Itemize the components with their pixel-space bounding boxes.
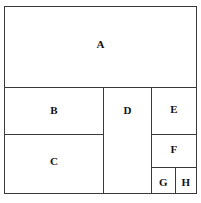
region-e: E [151,87,197,135]
region-f: F [151,134,197,168]
region-f-label: F [152,144,196,155]
region-h-label: H [176,177,196,188]
region-g-label: G [152,177,175,188]
region-b: B [4,87,104,135]
region-c: C [4,134,104,194]
region-a-label: A [5,39,196,50]
region-a: A [4,6,197,88]
region-b-label: B [5,105,103,116]
region-g: G [151,167,176,194]
rectangle-partition-diagram: A B C D E F G H [0,0,201,203]
region-d-label: D [104,105,151,116]
region-e-label: E [152,104,196,115]
region-d: D [103,87,152,194]
region-c-label: C [5,156,103,167]
region-h: H [175,167,197,194]
